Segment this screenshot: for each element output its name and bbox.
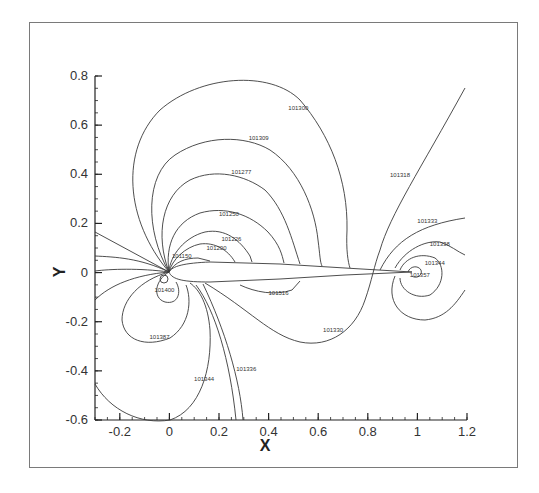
y-tick-label: 0.6	[70, 117, 88, 132]
y-tick-label: -0.6	[66, 412, 88, 427]
contour-label: 101300	[288, 105, 309, 111]
x-tick-label: 0.2	[210, 424, 228, 439]
x-tick-label: 0	[166, 424, 173, 439]
y-tick-label: 0.4	[70, 166, 88, 181]
contour-te-lower	[392, 276, 465, 320]
contour-label: 101387	[149, 334, 170, 340]
contour-label: 101333	[417, 218, 438, 224]
y-tick-label: 0.8	[70, 68, 88, 83]
contour-label: 101318	[390, 172, 411, 178]
contour-label: 101330	[323, 327, 344, 333]
contour-label: 101344	[425, 260, 446, 266]
x-tick-label: 1.2	[458, 424, 476, 439]
contour-lines	[95, 80, 465, 421]
contour-label: 101338	[430, 241, 451, 247]
x-axis-title: X	[260, 437, 271, 454]
contour-label: 101226	[221, 236, 242, 242]
contour-label: 101277	[231, 169, 252, 175]
contour-plot: 0.80.60.40.20-0.2-0.4-0.6 -0.200.20.40.6…	[0, 0, 539, 493]
contour-lower-large	[95, 283, 210, 421]
x-tick-label: 0.8	[359, 424, 377, 439]
contour-label: 101357	[410, 272, 431, 278]
y-tick-label: -0.2	[66, 314, 88, 329]
contour-labels: 1013001013091012771012501012261012001011…	[149, 105, 450, 381]
contour-label: 101150	[172, 253, 192, 259]
contour-101300	[133, 80, 350, 272]
contour-label: 101400	[154, 287, 175, 293]
contour-label: 101516	[269, 290, 290, 296]
y-tick-label: 0.2	[70, 215, 88, 230]
x-tick-label: 1	[414, 424, 421, 439]
contour-label: 101200	[207, 245, 228, 251]
contour-label: 101344	[194, 376, 215, 382]
y-tick-label: 0	[81, 265, 88, 280]
contour-fan-1	[95, 232, 169, 272]
y-axis-title: Y	[51, 266, 68, 277]
x-tick-label: -0.2	[109, 424, 131, 439]
y-tick-label: -0.4	[66, 363, 88, 378]
contour-101387	[122, 272, 189, 342]
contour-label: 101336	[236, 366, 257, 372]
x-tick-label: 0.6	[309, 424, 327, 439]
contour-fan-3	[95, 269, 169, 272]
contour-label: 101309	[249, 135, 270, 141]
axes: 0.80.60.40.20-0.2-0.4-0.6 -0.200.20.40.6…	[51, 68, 476, 454]
contour-label: 101250	[219, 211, 240, 217]
